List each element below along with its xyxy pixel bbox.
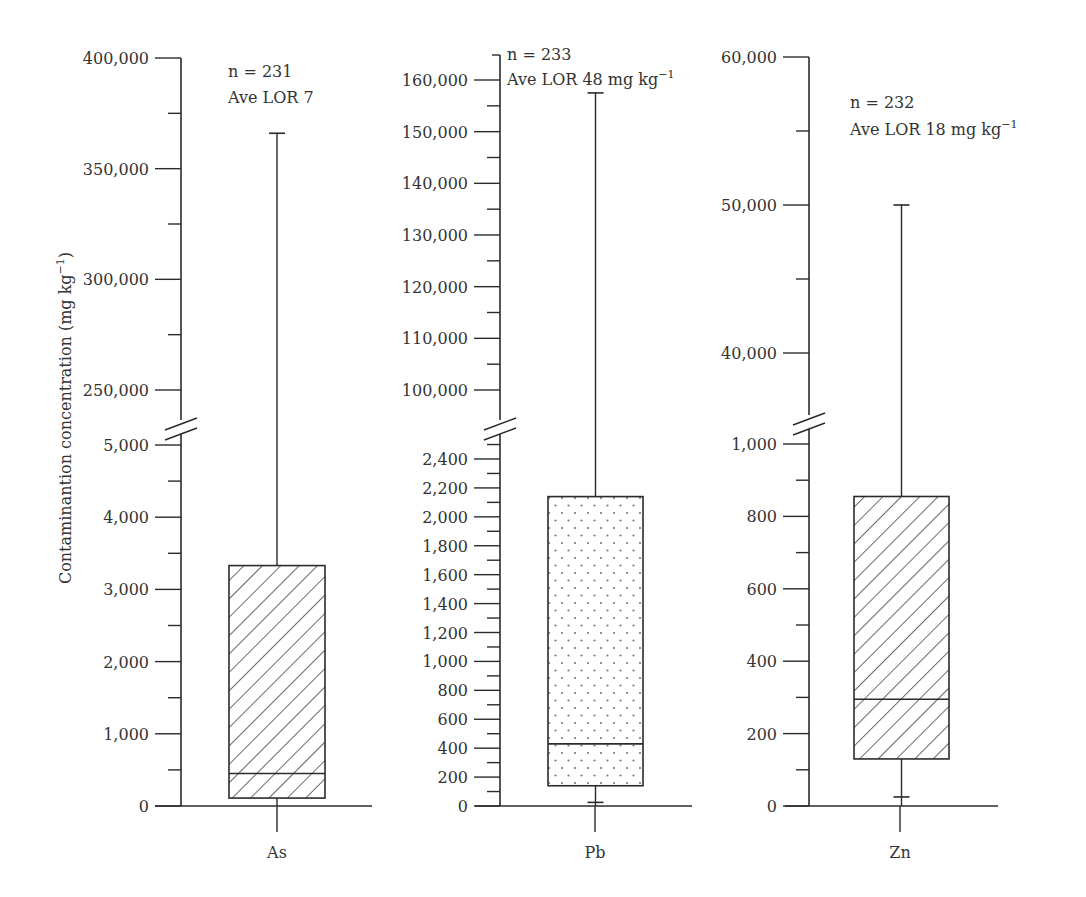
sample-count-annotation: n = 232 [850, 93, 914, 112]
y-tick-label: 400,000 [83, 49, 149, 68]
y-tick-label: 400 [746, 652, 777, 671]
y-tick-label: 3,000 [103, 580, 149, 599]
iqr-box [548, 497, 643, 786]
y-tick-label: 50,000 [721, 196, 777, 215]
sample-count-annotation: n = 231 [228, 62, 292, 81]
y-tick-label: 1,600 [422, 566, 468, 585]
iqr-box [229, 566, 325, 798]
y-tick-label: 0 [139, 797, 149, 816]
y-tick-label: 130,000 [402, 226, 468, 245]
lor-annotation: Ave LOR 7 [227, 88, 314, 107]
y-tick-label: 5,000 [103, 436, 149, 455]
category-label-as: As [266, 843, 287, 862]
panel-pb: Pb02004006008001,0001,2001,4001,6001,800… [402, 45, 692, 862]
y-tick-label: 0 [458, 797, 468, 816]
panel-zn: Zn02004006008001,00040,00050,00060,000n … [721, 48, 1017, 862]
y-tick-label: 140,000 [402, 174, 468, 193]
y-tick-label: 110,000 [402, 329, 468, 348]
sample-count-annotation: n = 233 [507, 45, 571, 64]
y-tick-label: 4,000 [103, 508, 149, 527]
panel-as: As01,0002,0003,0004,0005,000250,000300,0… [83, 49, 372, 862]
y-tick-label: 100,000 [402, 381, 468, 400]
y-tick-label: 200 [746, 725, 777, 744]
y-tick-label: 2,200 [422, 479, 468, 498]
y-axis-label: Contaminantion concentration (mg kg−1) [54, 252, 75, 584]
y-tick-label: 1,000 [422, 652, 468, 671]
y-tick-label: 250,000 [83, 381, 149, 400]
box-plot-chart: Contaminantion concentration (mg kg−1) A… [0, 0, 1086, 897]
category-label-zn: Zn [889, 843, 910, 862]
y-tick-label: 2,400 [422, 450, 468, 469]
lor-annotation: Ave LOR 48 mg kg−1 [506, 68, 674, 89]
y-tick-label: 600 [437, 710, 468, 729]
iqr-box [854, 496, 949, 758]
y-tick-label: 150,000 [402, 123, 468, 142]
y-tick-label: 2,000 [422, 508, 468, 527]
y-tick-label: 1,800 [422, 537, 468, 556]
y-tick-label: 1,400 [422, 595, 468, 614]
y-tick-label: 1,000 [731, 435, 777, 454]
category-label-pb: Pb [584, 843, 605, 862]
y-tick-label: 160,000 [402, 71, 468, 90]
y-tick-label: 200 [437, 768, 468, 787]
lor-annotation: Ave LOR 18 mg kg−1 [849, 118, 1017, 139]
y-tick-label: 800 [746, 507, 777, 526]
y-tick-label: 800 [437, 681, 468, 700]
y-tick-label: 300,000 [83, 270, 149, 289]
y-tick-label: 120,000 [402, 278, 468, 297]
y-tick-label: 600 [746, 580, 777, 599]
y-tick-label: 60,000 [721, 48, 777, 67]
y-tick-label: 1,200 [422, 624, 468, 643]
y-tick-label: 40,000 [721, 344, 777, 363]
y-tick-label: 350,000 [83, 160, 149, 179]
y-tick-label: 0 [767, 797, 777, 816]
y-tick-label: 1,000 [103, 725, 149, 744]
y-tick-label: 400 [437, 739, 468, 758]
y-tick-label: 2,000 [103, 653, 149, 672]
